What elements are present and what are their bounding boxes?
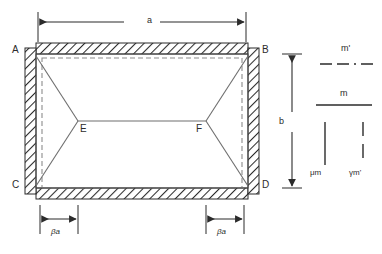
yield-line-B-F: [206, 56, 248, 121]
legend-label-m-prime: m': [341, 44, 350, 53]
dimension-a-label: a: [147, 16, 152, 25]
legend-label-gamma-m-prime: γm': [349, 169, 361, 177]
support-edge-bottom: [36, 188, 248, 199]
legend-line-samples: [316, 64, 374, 165]
dimension-beta-a-left-label: βa: [51, 228, 60, 236]
corner-label-B: B: [262, 45, 269, 55]
dimension-b-group: [282, 54, 302, 188]
support-edge-top: [36, 43, 248, 54]
support-edge-left: [25, 48, 36, 194]
legend-label-mu-m: μm: [310, 169, 321, 177]
inner-dashed-rectangle: [42, 58, 242, 188]
support-edge-right: [248, 48, 259, 194]
node-label-F: F: [196, 124, 202, 134]
corner-label-C: C: [12, 180, 19, 190]
figure-canvas: [0, 0, 382, 254]
corner-label-D: D: [262, 180, 269, 190]
dimension-b-label: b: [279, 117, 284, 126]
dimension-a-group: [38, 12, 246, 42]
node-label-E: E: [80, 124, 87, 134]
dimension-beta-a-right-label: βa: [217, 228, 226, 236]
legend-label-m: m: [340, 89, 348, 98]
corner-label-A: A: [12, 45, 19, 55]
yield-line-pattern: [36, 56, 248, 186]
yield-line-A-E: [36, 56, 78, 121]
yield-line-figure: a b A B C D E F βa βa m' m μm γm': [0, 0, 382, 254]
